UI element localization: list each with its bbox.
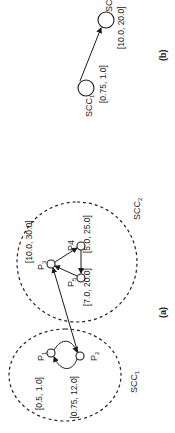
node-p4-label: P4: [66, 240, 76, 251]
node-p3: [47, 260, 55, 268]
node-scc1-interval: [0.75, 1.0]: [98, 65, 108, 103]
node-p1-interval: [0.5, 1.0]: [34, 377, 44, 410]
panel-a-caption: (a): [158, 307, 168, 318]
scc1-cluster-boundary: [9, 329, 121, 421]
node-p1-label: P1: [36, 351, 47, 361]
panel-b: SCC1 [0.75, 1.0] SC [10.0, 20.0] (b): [78, 0, 168, 117]
node-p1: [47, 349, 55, 357]
node-p3-interval: [10.0, 30.0]: [24, 220, 34, 263]
panel-b-caption: (b): [158, 50, 168, 62]
node-p2: [76, 352, 84, 360]
node-p5-label: P5: [66, 277, 77, 287]
node-p2-interval: [0.75, 12.0]: [69, 376, 79, 419]
edge-p2-p1: [54, 357, 77, 369]
node-scc1-label: SCC1: [84, 94, 95, 117]
edge-p5-p3: [55, 266, 77, 276]
scc-diagram-figure: P1 [0.5, 1.0] P2 [0.75, 12.0] P3 [10.0, …: [0, 0, 175, 433]
node-scc1: [78, 80, 94, 96]
node-scc2-interval: [10.0, 20.0]: [116, 6, 126, 49]
scc2-cluster-boundary: [17, 202, 137, 322]
node-p2-label: P2: [89, 351, 100, 361]
node-scc2-label: SC: [104, 0, 114, 12]
scc1-label: SCC1: [129, 370, 140, 393]
node-p3-label: P3: [36, 260, 47, 270]
scc2-label: SCC2: [132, 197, 143, 220]
node-p5-interval: [7.0, 20.0]: [82, 268, 92, 306]
panel-a: P1 [0.5, 1.0] P2 [0.75, 12.0] P3 [10.0, …: [9, 197, 168, 421]
edge-p1-p2: [54, 341, 77, 352]
node-scc2: [98, 12, 114, 28]
node-p4-interval: [5.0, 25.0]: [82, 215, 92, 253]
